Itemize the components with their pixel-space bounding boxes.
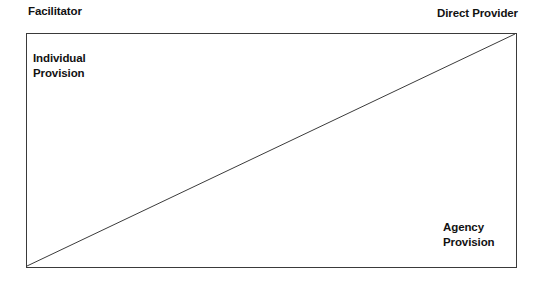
corner-label-individual-provision-line2: Provision xyxy=(33,66,86,81)
axis-caption-direct-provider: Direct Provider xyxy=(437,7,518,20)
corner-label-agency-provision-line1: Agency xyxy=(443,220,495,235)
diagram-canvas: Facilitator Direct Provider Individual P… xyxy=(0,0,539,283)
corner-label-agency-provision: Agency Provision xyxy=(443,220,495,250)
corner-label-agency-provision-line2: Provision xyxy=(443,235,495,250)
corner-label-individual-provision-line1: Individual xyxy=(33,51,86,66)
provision-matrix-box: Individual Provision Agency Provision xyxy=(26,33,517,268)
axis-caption-facilitator: Facilitator xyxy=(28,5,82,18)
diagonal-stroke xyxy=(27,34,515,266)
corner-label-individual-provision: Individual Provision xyxy=(33,51,86,81)
